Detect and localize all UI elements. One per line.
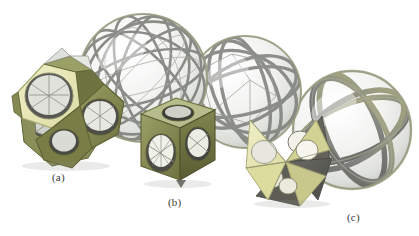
figure-container: (a) (b) (c)	[0, 0, 419, 236]
polyhedra-sphere-illustration	[0, 0, 419, 236]
panel-label-b: (b)	[168, 196, 181, 208]
panel-label-c: (c)	[347, 211, 360, 223]
panel-label-a: (a)	[52, 171, 65, 183]
